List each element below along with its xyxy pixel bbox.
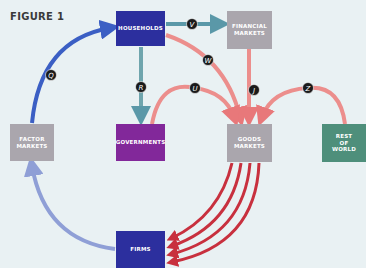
node-financial-markets: FINANCIAL MARKETS (227, 11, 272, 49)
node-financial-markets-label: FINANCIAL MARKETS (232, 23, 267, 37)
flow-goods-to-firms-arrows (172, 163, 259, 262)
svg-text:U: U (192, 85, 197, 93)
flow-firms-to-factor-arrow (32, 166, 115, 249)
flow-z-arrow (262, 88, 345, 124)
badge-z: Z (303, 83, 314, 94)
node-firms-label: FIRMS (130, 246, 150, 253)
flow-badges: Q R V W U J Z (46, 19, 314, 96)
node-households-label: HOUSEHOLDS (118, 25, 163, 32)
svg-text:R: R (139, 84, 144, 92)
node-governments: GOVERNMENTS (116, 124, 165, 161)
svg-text:Z: Z (305, 85, 311, 93)
badge-q: Q (46, 70, 57, 81)
badge-v: V (187, 19, 198, 30)
badge-j: J (249, 85, 260, 96)
svg-text:W: W (205, 57, 213, 65)
node-goods-markets-label: GOODS MARKETS (234, 136, 265, 150)
node-governments-label: GOVERNMENTS (116, 139, 166, 146)
node-factor-markets-label: FACTOR MARKETS (16, 136, 47, 150)
node-rest-of-world: REST OF WORLD (322, 124, 366, 162)
svg-text:Q: Q (48, 72, 54, 80)
node-firms: FIRMS (116, 231, 165, 268)
flow-arrows: Q R V W U J Z (0, 0, 366, 268)
flow-q-arrow (32, 28, 110, 123)
node-rest-of-world-label: REST OF WORLD (332, 133, 356, 154)
badge-r: R (136, 82, 147, 93)
badge-w: W (203, 55, 214, 66)
badge-u: U (190, 83, 201, 94)
node-goods-markets: GOODS MARKETS (227, 124, 272, 162)
node-factor-markets: FACTOR MARKETS (10, 124, 54, 161)
node-households: HOUSEHOLDS (116, 11, 165, 46)
